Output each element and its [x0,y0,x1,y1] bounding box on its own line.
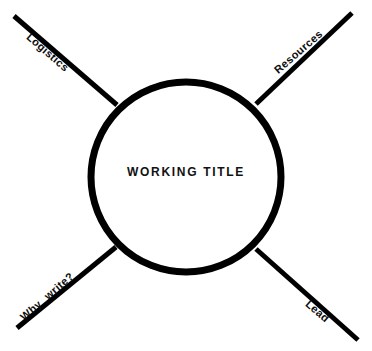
center-node-label: WORKING TITLE [0,166,372,178]
working-title-diagram: WORKING TITLE Logistics Resources Why wr… [0,0,372,351]
